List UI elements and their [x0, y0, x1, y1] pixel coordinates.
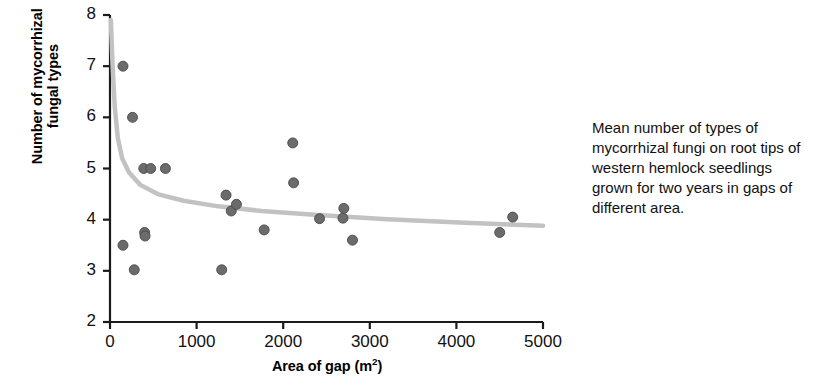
- data-point: [315, 214, 325, 224]
- trendline: [111, 20, 543, 226]
- data-point: [128, 112, 138, 122]
- data-points-group: [118, 61, 518, 275]
- data-point: [160, 164, 170, 174]
- data-point: [288, 138, 298, 148]
- scatter-chart: Number of mycorrhizal fungal types Area …: [0, 0, 560, 385]
- data-point: [140, 231, 150, 241]
- data-point: [508, 212, 518, 222]
- data-point: [146, 164, 156, 174]
- data-point: [221, 190, 231, 200]
- data-point: [118, 61, 128, 71]
- data-point: [495, 227, 505, 237]
- data-point: [118, 240, 128, 250]
- data-point: [338, 213, 348, 223]
- data-point: [339, 203, 349, 213]
- trendline-group: [111, 20, 543, 226]
- data-point: [289, 178, 299, 188]
- data-point: [231, 199, 241, 209]
- figure-container: Number of mycorrhizal fungal types Area …: [0, 0, 818, 385]
- figure-caption: Mean number of types of mycorrhizal fung…: [592, 118, 808, 218]
- data-point: [129, 265, 139, 275]
- plot-svg: [0, 0, 560, 385]
- data-point: [217, 265, 227, 275]
- data-point: [347, 235, 357, 245]
- data-point: [259, 225, 269, 235]
